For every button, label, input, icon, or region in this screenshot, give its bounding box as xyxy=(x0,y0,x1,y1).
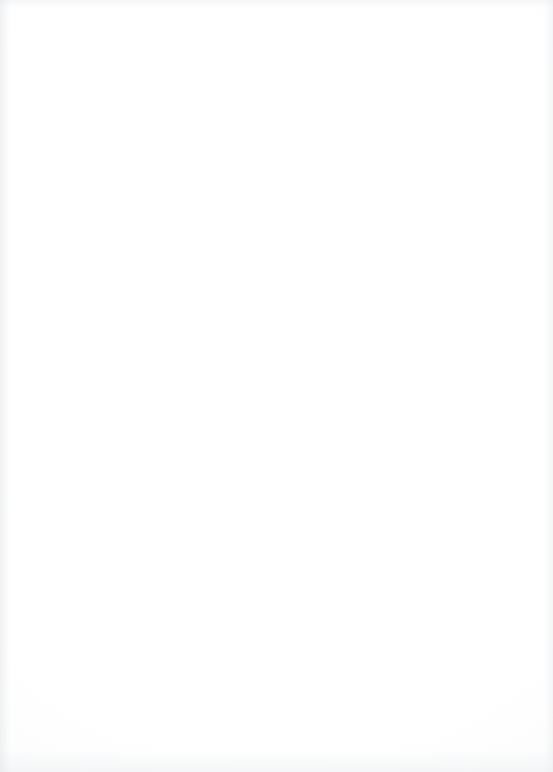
ruled-line xyxy=(4,727,546,729)
ruled-line xyxy=(4,656,546,658)
ruled-line xyxy=(4,158,546,160)
ruled-line xyxy=(4,632,546,634)
ruled-line xyxy=(4,182,546,184)
notebook-page: TAKE A WALK ON YOUR LUNCH BREAK. LIST EV… xyxy=(0,0,553,772)
ruled-line xyxy=(4,443,546,445)
ruled-line xyxy=(4,229,546,231)
ruled-line xyxy=(4,609,546,611)
ruled-line xyxy=(4,585,546,587)
ruled-line xyxy=(4,703,546,705)
ruled-line xyxy=(4,300,546,302)
ruled-line xyxy=(4,253,546,255)
ruled-line xyxy=(4,680,546,682)
ruled-line xyxy=(4,490,546,492)
ruled-line xyxy=(4,537,546,539)
ruled-line xyxy=(4,135,546,137)
ruled-line xyxy=(4,561,546,563)
ruled-lines xyxy=(0,0,553,772)
ruled-line xyxy=(4,324,546,326)
ruled-line xyxy=(4,16,546,18)
ruled-line xyxy=(4,419,546,421)
ruled-line xyxy=(4,372,546,374)
ruled-line xyxy=(4,206,546,208)
ruled-line xyxy=(4,395,546,397)
ruled-line xyxy=(4,514,546,516)
ruled-line xyxy=(4,466,546,468)
prompt-line-1: TAKE A WALK ON YOUR LUNCH BREAK. xyxy=(42,33,520,54)
ruled-line xyxy=(4,277,546,279)
prompt-line-2: LIST EVERYTHING YOU HEAR, SEE, OR THINK. xyxy=(40,59,548,78)
ruled-line xyxy=(4,111,546,113)
ruled-line xyxy=(4,348,546,350)
